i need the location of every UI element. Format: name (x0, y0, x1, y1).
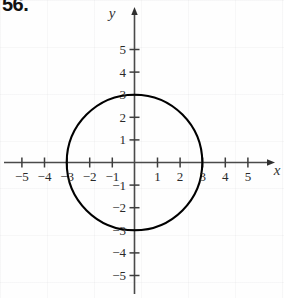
x-tick-label: 3 (199, 169, 206, 184)
coordinate-plane: y x −5 −4 −3 −2 −1 1 2 3 4 5 5 4 3 2 1 −… (0, 0, 284, 298)
y-tick-label: 5 (120, 42, 127, 57)
exercise-figure: 56. (0, 0, 284, 298)
x-tick-label: 2 (177, 169, 184, 184)
y-axis-label: y (107, 5, 116, 21)
x-tick-label: 5 (245, 169, 252, 184)
y-tick-label: 3 (120, 87, 127, 102)
x-tick-label: −5 (15, 169, 29, 184)
x-tick-label: −4 (38, 169, 52, 184)
y-tick-label: −4 (112, 245, 126, 260)
y-tick-label: −3 (112, 223, 126, 238)
y-tick-label: 2 (120, 110, 127, 125)
x-axis-label: x (273, 162, 281, 178)
x-tick-label: −2 (83, 169, 97, 184)
x-tick-label: −3 (60, 169, 74, 184)
x-tick-label: 1 (154, 169, 161, 184)
x-tick-labels: −5 −4 −3 −2 −1 1 2 3 4 5 (15, 169, 251, 184)
y-tick-label: −2 (112, 200, 126, 215)
y-tick-label: 1 (120, 132, 127, 147)
x-tick-label: 4 (222, 169, 229, 184)
y-tick-label: 4 (120, 65, 127, 80)
y-tick-label: −1 (112, 178, 126, 193)
y-tick-label: −5 (112, 268, 126, 283)
